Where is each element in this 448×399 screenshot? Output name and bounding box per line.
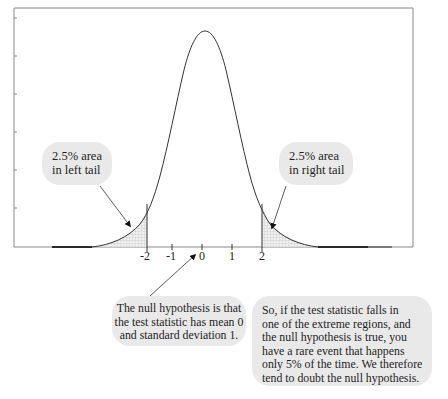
right-tail-callout-line-2: in right tail: [289, 164, 353, 178]
conclusion-line-1: So, if the test statistic falls in: [262, 304, 432, 318]
null-hypothesis-line-3: and standard deviation 1.: [112, 329, 246, 343]
normal-density-curve: [52, 31, 392, 247]
null-hypothesis-line-2: the test statistic has mean 0: [112, 316, 246, 330]
plot-frame: [14, 8, 413, 247]
conclusion-line-2: one of the extreme regions, and: [262, 318, 432, 332]
left-tail-callout-line-2: in left tail: [52, 164, 112, 178]
left-tail-callout-line-1: 2.5% area: [52, 150, 112, 164]
x-tick-label-neg2: -2: [140, 249, 150, 264]
right-tail-arrow: [272, 186, 286, 228]
conclusion-line-3: the null hypothesis is true, you: [262, 331, 432, 345]
null-hypothesis-callout: The null hypothesis is that the test sta…: [112, 296, 246, 346]
right-tail-callout: 2.5% area in right tail: [279, 142, 353, 185]
left-tail-callout: 2.5% area in left tail: [42, 142, 112, 185]
left-tail-arrow: [100, 186, 130, 226]
x-tick-label-2: 2: [259, 249, 265, 264]
conclusion-line-4: have a rare event that happens: [262, 345, 432, 359]
null-hypothesis-line-1: The null hypothesis is that: [112, 302, 246, 316]
x-tick-label-neg1: -1: [166, 249, 176, 264]
conclusion-callout: So, if the test statistic falls in one o…: [252, 296, 432, 386]
conclusion-line-5: only 5% of the time. We therefore: [262, 358, 432, 372]
right-tail-shaded-region: [262, 204, 318, 247]
right-tail-callout-line-1: 2.5% area: [289, 150, 353, 164]
x-tick-label-1: 1: [229, 249, 235, 264]
x-tick-label-0: 0: [199, 249, 205, 264]
conclusion-line-6: tend to doubt the null hypothesis.: [262, 372, 432, 386]
